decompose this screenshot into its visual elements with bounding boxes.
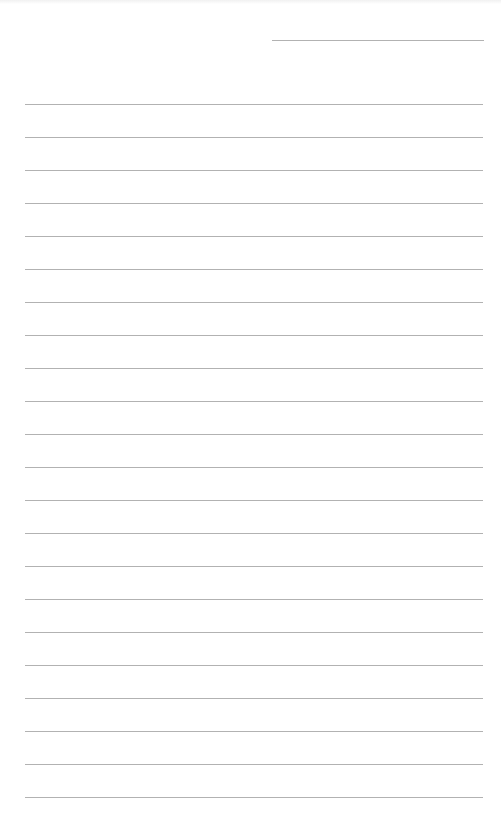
ruled-line xyxy=(25,731,483,732)
ruled-line xyxy=(25,434,483,435)
ruled-line xyxy=(25,500,483,501)
ruled-line xyxy=(25,269,483,270)
ruled-line xyxy=(25,599,483,600)
ruled-line xyxy=(25,533,483,534)
ruled-line xyxy=(25,104,483,105)
ruled-line xyxy=(25,401,483,402)
ruled-line xyxy=(25,632,483,633)
ruled-line xyxy=(25,203,483,204)
ruled-line xyxy=(25,665,483,666)
ruled-line xyxy=(25,467,483,468)
ruled-line xyxy=(25,302,483,303)
ruled-line xyxy=(25,764,483,765)
ruled-line xyxy=(25,368,483,369)
ruled-lines-area xyxy=(0,0,501,835)
ruled-line xyxy=(25,137,483,138)
ruled-line xyxy=(25,698,483,699)
ruled-line xyxy=(25,236,483,237)
ruled-line xyxy=(25,335,483,336)
ruled-line xyxy=(25,797,483,798)
ruled-line xyxy=(25,566,483,567)
ruled-line xyxy=(25,170,483,171)
